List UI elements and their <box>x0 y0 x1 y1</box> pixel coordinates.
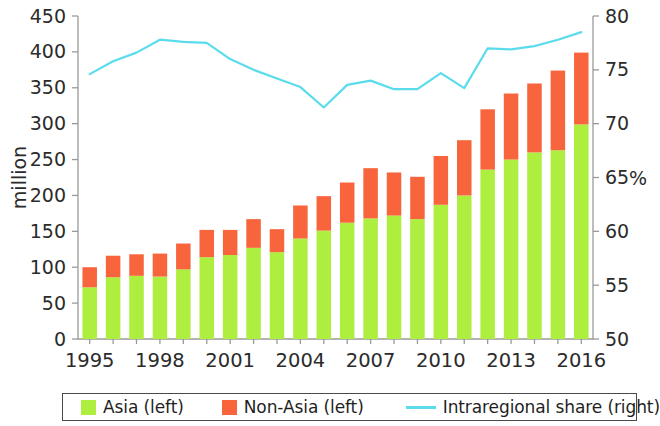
bar-segment-non-asia <box>457 140 472 195</box>
x-axis-tick-label: 2004 <box>276 349 326 372</box>
bar-segment-non-asia <box>82 267 97 287</box>
legend-swatch-asia <box>81 400 96 415</box>
bar-segment-non-asia <box>574 53 589 125</box>
y-axis-tick-label: 50 <box>42 292 66 314</box>
axes-layer <box>72 16 599 344</box>
bar-segment-non-asia <box>106 256 121 278</box>
bar-segment-asia <box>480 170 495 339</box>
bar-segment-non-asia <box>504 94 519 160</box>
y-axis-tick-label: 400 <box>30 40 66 62</box>
y-axis-title: million <box>8 146 30 209</box>
x-axis-tick-label: 1998 <box>135 349 185 372</box>
legend-label-intraregional-share: Intraregional share (right) <box>443 397 660 417</box>
bar-segment-non-asia <box>270 229 285 252</box>
x-axis-tick-label: 2007 <box>346 349 396 372</box>
x-axis-tick-label: 2001 <box>205 349 255 372</box>
bar-segment-non-asia <box>317 196 332 230</box>
bar-segment-non-asia <box>223 230 238 255</box>
y-axis-tick-label: 350 <box>30 76 66 98</box>
bar-segment-non-asia <box>410 177 425 219</box>
y-axis-tick-label: 150 <box>30 220 66 242</box>
legend-item-non-asia: Non-Asia (left) <box>222 397 364 417</box>
y2-axis-tick-label: 75 <box>605 58 629 80</box>
bar-segment-asia <box>574 124 589 339</box>
y2-axis-tick-label: 80 <box>605 5 629 27</box>
bar-segment-asia <box>129 276 144 339</box>
x-axis-tick-label: 2013 <box>486 349 536 372</box>
bar-segment-asia <box>457 195 472 339</box>
x-axis-tick-label: 2016 <box>556 349 606 372</box>
bar-segment-asia <box>199 257 214 339</box>
x-axis-tick-label: 2010 <box>416 349 466 372</box>
bar-segment-asia <box>246 248 261 339</box>
bar-segment-asia <box>504 160 519 339</box>
y2-axis-tick-label: 50 <box>605 328 629 350</box>
bar-segment-asia <box>223 255 238 339</box>
bar-segment-non-asia <box>246 219 261 248</box>
plot-area: 0501001502002503003504004505055606570758… <box>0 0 653 388</box>
y-axis-tick-label: 200 <box>30 184 66 206</box>
y2-axis-tick-label: 65 <box>605 166 629 188</box>
legend-label-asia: Asia (left) <box>103 397 184 417</box>
y2-axis-tick-label: 55 <box>605 274 629 296</box>
legend-swatch-non-asia <box>222 400 237 415</box>
legend-item-intraregional-share: Intraregional share (right) <box>406 397 660 417</box>
bar-segment-asia <box>551 150 566 339</box>
bar-segment-non-asia <box>199 230 214 257</box>
bar-segment-asia <box>106 277 121 339</box>
y-axis-tick-label: 0 <box>54 328 66 350</box>
bar-segment-asia <box>410 219 425 339</box>
bar-segment-asia <box>387 216 402 339</box>
bar-segment-asia <box>527 152 542 339</box>
bar-segment-asia <box>293 239 308 339</box>
bar-segment-non-asia <box>551 71 566 151</box>
bar-segment-asia <box>82 287 97 339</box>
legend-label-non-asia: Non-Asia (left) <box>244 397 364 417</box>
bar-segment-asia <box>340 223 355 339</box>
bar-segment-asia <box>270 252 285 339</box>
bar-segment-non-asia <box>129 254 144 276</box>
bar-segment-asia <box>176 269 191 339</box>
y-axis-tick-label: 250 <box>30 148 66 170</box>
bar-segment-non-asia <box>434 156 449 205</box>
bar-segment-non-asia <box>387 172 402 215</box>
bar-segment-non-asia <box>480 109 495 169</box>
bar-segment-asia <box>363 218 378 339</box>
y-axis-tick-label: 450 <box>30 5 66 27</box>
bar-segment-non-asia <box>527 83 542 152</box>
bar-segment-non-asia <box>293 205 308 238</box>
y-axis-tick-label: 100 <box>30 256 66 278</box>
bar-segment-asia <box>434 205 449 339</box>
bar-segment-non-asia <box>153 254 168 277</box>
bar-segment-non-asia <box>176 244 191 270</box>
legend-item-asia: Asia (left) <box>81 397 184 417</box>
chart-legend: Asia (left) Non-Asia (left) Intraregiona… <box>62 393 637 421</box>
y2-axis-title: % <box>629 167 647 189</box>
legend-line-intraregional-share <box>406 406 436 409</box>
bar-segment-asia <box>153 277 168 339</box>
x-axis-tick-label: 1995 <box>65 349 115 372</box>
y2-axis-tick-label: 60 <box>605 220 629 242</box>
y2-axis-tick-label: 70 <box>605 112 629 134</box>
y-axis-tick-label: 300 <box>30 112 66 134</box>
bar-segment-non-asia <box>340 183 355 223</box>
stacked-bar-line-chart: 0501001502002503003504004505055606570758… <box>0 0 653 388</box>
bar-segment-non-asia <box>363 168 378 218</box>
bar-segment-asia <box>317 231 332 339</box>
